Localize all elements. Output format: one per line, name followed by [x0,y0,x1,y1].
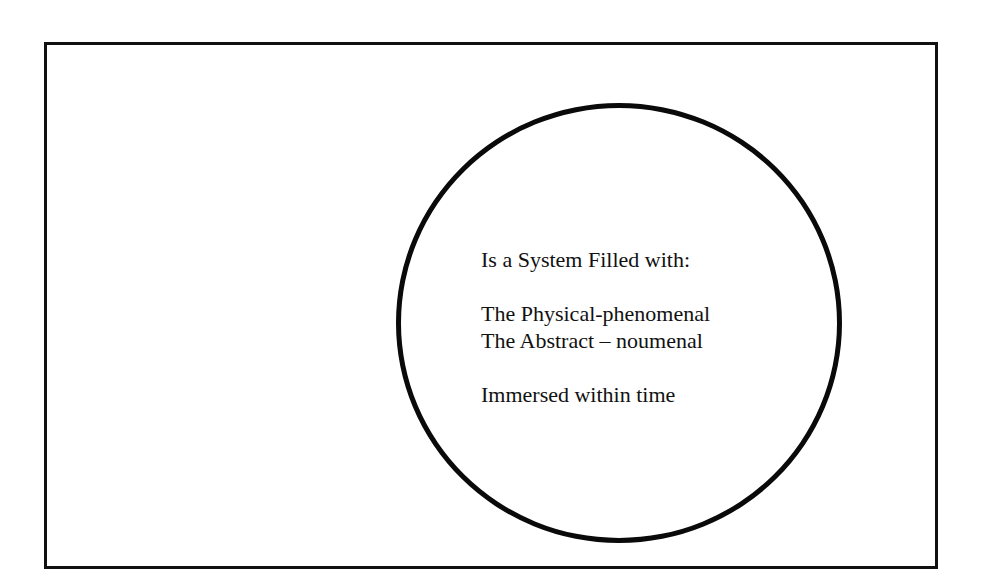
circle-footer: Immersed within time [481,381,710,408]
spacer [481,354,710,381]
item-abstract: The Abstract – noumenal [481,327,710,354]
circle-label: Is a System Filled with: The Physical-ph… [481,246,710,408]
spacer [481,273,710,300]
item-physical: The Physical-phenomenal [481,300,710,327]
circle-heading: Is a System Filled with: [481,246,710,273]
